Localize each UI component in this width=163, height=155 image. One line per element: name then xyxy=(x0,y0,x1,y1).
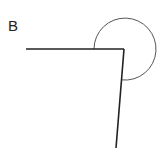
descending-ray xyxy=(116,49,124,148)
angle-diagram xyxy=(0,0,163,155)
